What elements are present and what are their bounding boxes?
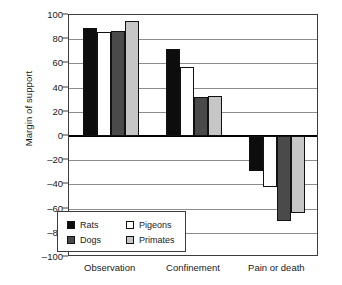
bar-dogs-3 [277,136,291,221]
bar-pigeons-2 [180,67,194,136]
legend-label-primates: Primates [139,235,175,245]
bar-chart-figure: Margin of support 100806040200–20–40–60–… [0,0,342,285]
y-axis-tick-label: 80 [17,33,63,44]
y-axis-tick-label: –40 [17,178,63,189]
legend-entry-primates: Primates [126,235,185,245]
legend-label-pigeons: Pigeons [139,220,172,230]
y-axis-tick-label: 20 [17,105,63,116]
chart-legend: Rats Pigeons Dogs Primates [57,211,186,252]
legend-entry-pigeons: Pigeons [126,220,185,230]
legend-swatch-dogs [67,236,75,244]
legend-swatch-primates [126,236,134,244]
y-axis-tick-label: –20 [17,154,63,165]
y-axis-tick-label: –100 [17,251,63,262]
bar-primates-1 [125,21,139,136]
legend-swatch-pigeons [126,221,134,229]
y-axis-tick-label: 60 [17,57,63,68]
bar-rats-2 [166,49,180,136]
bar-dogs-2 [194,97,208,136]
legend-row: Dogs Primates [67,232,185,247]
x-axis-label-3: Pain or death [248,262,305,273]
y-axis-tick-label: 100 [17,9,63,20]
bar-primates-3 [291,136,305,213]
y-axis-tick-label: 40 [17,81,63,92]
legend-entry-dogs: Dogs [67,235,126,245]
bar-rats-1 [83,28,97,136]
legend-row: Rats Pigeons [67,217,185,232]
bar-pigeons-1 [97,32,111,136]
bar-rats-3 [249,136,263,171]
bar-pigeons-3 [263,136,277,187]
x-axis-label-1: Observation [84,262,135,273]
legend-label-dogs: Dogs [80,235,101,245]
x-axis-label-2: Confinement [166,262,220,273]
legend-entry-rats: Rats [67,220,126,230]
bar-dogs-1 [111,31,125,136]
y-axis-tick-label: 0 [17,130,63,141]
legend-swatch-rats [67,221,75,229]
legend-label-rats: Rats [80,220,99,230]
bar-primates-2 [208,96,222,136]
